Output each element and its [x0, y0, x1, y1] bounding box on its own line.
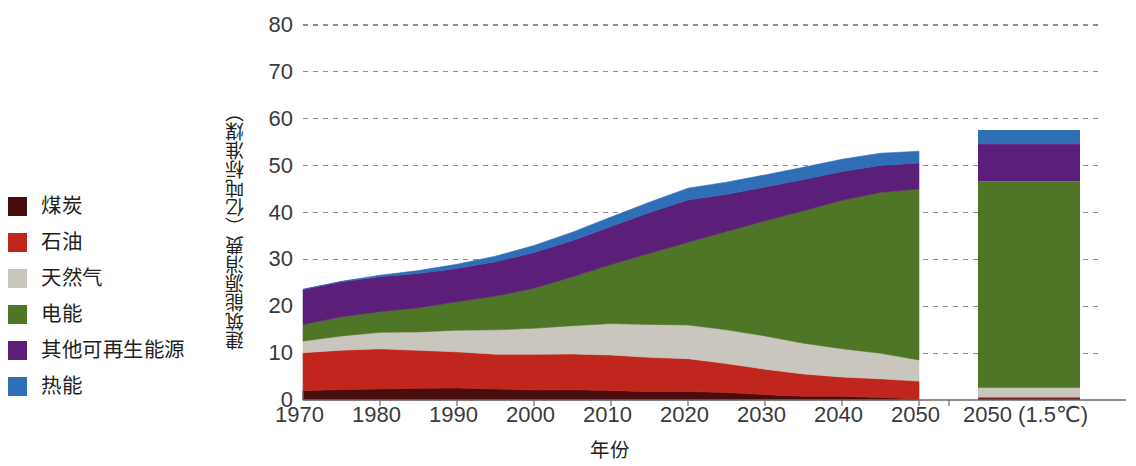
stacked-area-series: [303, 151, 919, 400]
plot-area: 建筑能源消费（亿吨标准煤） 年份 0 10 20 30 40 50 60 70 …: [0, 0, 1136, 466]
chart-canvas: [0, 0, 1136, 466]
chart-figure: 煤炭 石油 天然气 电能 其他可再生能源 热能 建筑能源消费（亿吨标准煤） 年份…: [0, 0, 1136, 466]
scenario-bar-2050-1p5c: [978, 130, 1080, 400]
